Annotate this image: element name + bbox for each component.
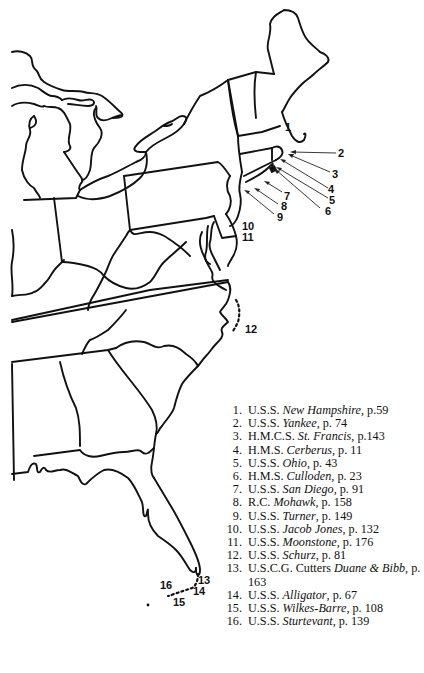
marker-1: 1	[285, 121, 291, 133]
legend-prefix: U.S.S.	[248, 403, 283, 417]
marker-14: 14	[193, 585, 206, 597]
marker-15: 15	[173, 596, 185, 608]
page-ref: , p. 67	[327, 588, 357, 602]
marker-9: 9	[277, 211, 283, 223]
marker-16: 16	[160, 579, 172, 591]
marker-2: 2	[338, 147, 344, 159]
legend-prefix: U.S.S.	[248, 601, 283, 615]
page-ref: , p. 132	[342, 522, 379, 536]
ship-name: Moonstone	[283, 535, 337, 549]
ship-name: Wilkes-Barre	[283, 601, 347, 615]
ship-name: Culloden	[287, 469, 332, 483]
legend-prefix: H.M.S.	[248, 443, 287, 457]
ship-name: Yankee	[283, 416, 317, 430]
legend-number: 13.	[226, 562, 248, 575]
ship-name: New Hampshire	[283, 403, 361, 417]
ship-name: Mohawk	[273, 495, 315, 509]
shipwreck-legend: 1. U.S.S. New Hampshire, p.59 2. U.S.S. …	[226, 404, 422, 628]
mid-atlantic	[124, 80, 242, 290]
legend-prefix: U.S.S.	[248, 482, 283, 496]
ship-name: Cerberus	[287, 443, 332, 457]
legend-number: 16.	[226, 615, 248, 628]
legend-item: 16. U.S.S. Sturtevant, p. 139	[226, 615, 422, 628]
ship-name: Turner	[283, 509, 316, 523]
marker-3: 3	[332, 168, 338, 180]
legend-number: 8.	[226, 496, 248, 509]
legend-prefix: U.S.S.	[248, 535, 283, 549]
ship-name: St. Francis	[298, 429, 352, 443]
legend-prefix: U.S.S.	[248, 416, 283, 430]
legend-prefix: U.S.C.G. Cutters	[248, 561, 334, 575]
ship-name: Ohio	[283, 456, 307, 470]
legend-prefix: R.C.	[248, 495, 273, 509]
page-ref: , p. 176	[337, 535, 374, 549]
page-ref: , p. 91	[334, 482, 364, 496]
legend-prefix: U.S.S.	[248, 614, 283, 628]
legend-number: 9.	[226, 510, 248, 523]
page-ref: , p. 108	[346, 601, 383, 615]
page-ref: , p. 11	[332, 443, 362, 457]
ship-name: Sturtevant	[283, 614, 333, 628]
new-england	[228, 10, 329, 182]
page-ref: , p. 43	[307, 456, 337, 470]
page-ref: , p. 149	[316, 509, 353, 523]
pointer-arrows	[244, 150, 336, 214]
legend-prefix: H.M.C.S.	[248, 429, 298, 443]
legend-prefix: U.S.S.	[248, 548, 283, 562]
great-lakes	[12, 51, 186, 199]
marker-12: 12	[245, 323, 257, 335]
page-ref: , p. 139	[333, 614, 370, 628]
page-ref: , p. 158	[315, 495, 352, 509]
page-ref: , p. 74	[317, 416, 347, 430]
legend-prefix: U.S.S.	[248, 522, 283, 536]
ship-name: Duane & Bibb	[334, 561, 405, 575]
ship-name: San Diego	[283, 482, 334, 496]
ship-name: Schurz	[283, 548, 316, 562]
southeast-states	[12, 282, 239, 606]
legend-prefix: U.S.S.	[248, 588, 283, 602]
legend-number: 4.	[226, 444, 248, 457]
page-ref: , p. 81	[316, 548, 346, 562]
ship-name: Jacob Jones	[283, 522, 343, 536]
legend-item: 13. U.S.C.G. Cutters Duane & Bibb, p. 16…	[226, 562, 422, 588]
legend-prefix: H.M.S.	[248, 469, 287, 483]
page-ref: , p. 23	[331, 469, 361, 483]
midwest-states	[11, 190, 228, 480]
marker-6: 6	[325, 205, 331, 217]
legend-number: 3.	[226, 430, 248, 443]
page-ref: , p.143	[351, 429, 385, 443]
page-ref: , p.59	[361, 403, 388, 417]
legend-prefix: U.S.S.	[248, 509, 283, 523]
marker-11: 11	[242, 231, 254, 243]
legend-prefix: U.S.S.	[248, 456, 283, 470]
ship-name: Alligator	[283, 588, 327, 602]
